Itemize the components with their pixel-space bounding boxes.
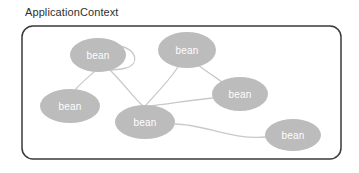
node-bean-top-middle[interactable]: bean bbox=[158, 32, 216, 68]
node-bean-bottom-right-label: bean bbox=[281, 130, 304, 141]
node-bean-bottom-right[interactable]: bean bbox=[265, 119, 321, 151]
node-bean-center-label: bean bbox=[133, 117, 156, 128]
node-bean-left[interactable]: bean bbox=[40, 89, 100, 123]
diagram-root: ApplicationContext bean bean bean bbox=[0, 0, 359, 173]
node-bean-right[interactable]: bean bbox=[212, 77, 268, 111]
node-bean-right-label: bean bbox=[228, 89, 251, 100]
node-bean-top-middle-label: bean bbox=[175, 45, 198, 56]
node-bean-center[interactable]: bean bbox=[115, 105, 175, 139]
node-bean-top-left[interactable]: bean bbox=[70, 38, 126, 72]
node-bean-top-left-label: bean bbox=[86, 50, 109, 61]
node-bean-left-label: bean bbox=[58, 101, 81, 112]
diagram-canvas: bean bean bean bean bean bean bbox=[0, 0, 359, 173]
